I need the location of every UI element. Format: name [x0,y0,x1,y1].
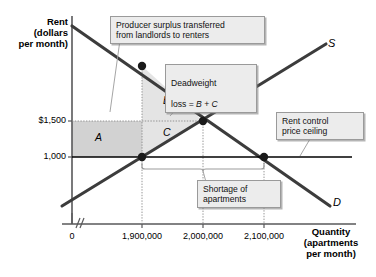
y-axis-title: Rent (dollars per month) [6,16,68,49]
point-quantity-demanded [260,153,268,161]
point-demand-above-ceiling [138,62,146,70]
origin-label: 0 [64,231,80,241]
callout-rent-control: Rent control price ceiling [276,112,364,140]
demand-curve-label: D [333,196,341,208]
y-tick-label-1000: 1,000 [10,151,66,161]
figure-root: Rent (dollars per month) Quantity (apart… [0,0,376,277]
axis-break-icon [72,213,84,228]
callout-shortage: Shortage of apartments [197,180,281,208]
deadweight-loss-line1: Deadweight [171,78,216,88]
deadweight-loss-prefix: loss = [171,99,196,109]
region-label-c: C [163,126,171,138]
deadweight-loss-plus: + [202,99,212,109]
y-tick-label-1500: $1,500 [10,115,66,125]
point-quantity-supplied [138,153,146,161]
callout-producer-surplus: Producer surplus transferred from landlo… [110,16,265,44]
region-label-a: A [95,131,102,143]
x-axis-title: Quantity (apartments per month) [288,226,374,259]
point-equilibrium [199,117,207,125]
deadweight-loss-term-c: C [212,99,218,109]
region-a-shape [72,121,142,157]
x-tick-label-2100000: 2,100,000 [228,231,300,241]
supply-curve-label: S [328,37,335,49]
callout-deadweight-loss: Deadweight loss = B + C [165,64,257,113]
